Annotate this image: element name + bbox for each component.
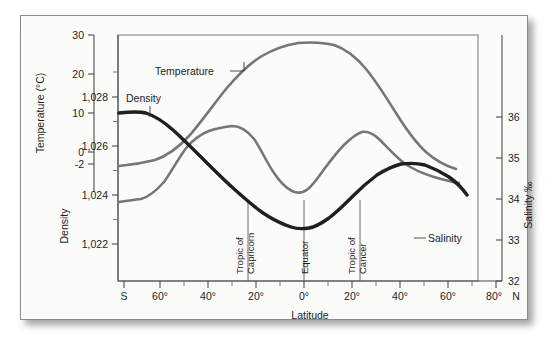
latitude-markers: Tropic of Capricorn Equator Tropic of Ca… (234, 200, 368, 281)
marker-label-equator: Equator (299, 241, 310, 274)
lat-label-S: S (120, 290, 127, 302)
latitude-axis-title: Latitude (291, 309, 329, 321)
lat-label-60S: 60° (152, 290, 168, 302)
temp-tick-label-30: 30 (72, 29, 84, 41)
density-tick-label-1024: 1,024 (82, 189, 108, 201)
temperature-axis: 30 20 10 0 -2 Temperature (°C) (34, 29, 94, 192)
density-tick-label-1026: 1,026 (82, 140, 108, 152)
salinity-tick-label-32: 32 (508, 275, 520, 287)
latitude-axis: S 60° 40° 20° 0° 20° 40° 60° 80° N Latit… (118, 281, 520, 321)
density-axis: 1,028 1,026 1,024 1,022 Density (58, 35, 118, 281)
marker-label-tropic-capricorn-line1: Tropic of (234, 237, 245, 274)
lat-label-20N: 20° (344, 290, 360, 302)
temperature-curve (119, 42, 456, 169)
lat-label-60N: 60° (440, 290, 456, 302)
salinity-tick-label-34: 34 (508, 193, 520, 205)
marker-label-tropic-capricorn-line2: Capricorn (245, 233, 256, 274)
marker-label-tropic-cancer-line2: Cancer (357, 243, 368, 274)
salinity-axis-title: Salinity ‰ (522, 181, 534, 229)
chart-page: 30 20 10 0 -2 Temperature (°C) 1,028 1,0… (0, 0, 554, 355)
temperature-axis-title: Temperature (°C) (34, 73, 46, 154)
temp-tick-label-10: 10 (72, 107, 84, 119)
temp-tick-label-20: 20 (72, 68, 84, 80)
lat-label-80N: 80° (486, 290, 502, 302)
salinity-axis: 36 35 34 33 32 Salinity ‰ (496, 35, 534, 287)
density-axis-title: Density (58, 208, 70, 244)
density-tick-label-1028: 1,028 (82, 91, 108, 103)
salinity-tick-label-36: 36 (508, 111, 520, 123)
temperature-leader-line (230, 62, 244, 71)
temp-tick-label-neg2: -2 (75, 158, 84, 170)
latitude-profile-chart: 30 20 10 0 -2 Temperature (°C) 1,028 1,0… (0, 0, 554, 355)
lat-label-0: 0° (299, 290, 309, 302)
lat-label-hemisphere-N: N (512, 290, 520, 302)
salinity-series-label: Salinity (428, 232, 463, 244)
lat-label-20S: 20° (248, 290, 264, 302)
lat-label-40S: 40° (200, 290, 216, 302)
temperature-series-label: Temperature (155, 65, 214, 77)
density-series-label: Density (126, 92, 162, 104)
salinity-tick-label-35: 35 (508, 152, 520, 164)
density-tick-label-1022: 1,022 (82, 238, 108, 250)
salinity-tick-label-33: 33 (508, 234, 520, 246)
marker-label-tropic-cancer-line1: Tropic of (346, 237, 357, 274)
lat-label-40N: 40° (392, 290, 408, 302)
